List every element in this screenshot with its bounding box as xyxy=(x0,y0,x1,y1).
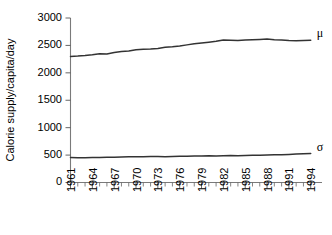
x-tick-label: 1964 xyxy=(87,168,99,192)
x-tick-label: 1985 xyxy=(240,168,252,192)
y-axis-title: Calorie supply/capita/day xyxy=(4,38,16,161)
x-tick-label: 1982 xyxy=(218,168,230,192)
x-tick-label: 1994 xyxy=(305,168,317,192)
y-tick-label: 3000 xyxy=(38,11,62,23)
x-axis-tick-labels: 1961196419671970197319761979198219851988… xyxy=(65,168,317,192)
x-tick-label: 1988 xyxy=(262,168,274,192)
series-label-1: μ xyxy=(317,26,323,40)
y-tick-label: 500 xyxy=(44,148,62,160)
x-tick-label: 1973 xyxy=(152,168,164,192)
x-axis-ticks xyxy=(71,183,311,189)
y-tick-label: 1000 xyxy=(38,121,62,133)
x-tick-label: 1976 xyxy=(174,168,186,192)
series-line-1 xyxy=(71,39,311,56)
y-axis-ticks xyxy=(66,18,71,183)
series-line-2 xyxy=(71,153,311,157)
y-tick-label: 1500 xyxy=(38,93,62,105)
x-tick-label: 1979 xyxy=(196,168,208,192)
x-tick-label: 1961 xyxy=(65,168,77,192)
y-axis-tick-labels: 050010001500200025003000 xyxy=(38,11,62,188)
y-tick-label: 2000 xyxy=(38,66,62,78)
series-label-group: μσ xyxy=(317,26,324,154)
series-label-2: σ xyxy=(317,140,324,154)
y-tick-label: 0 xyxy=(56,175,62,187)
y-tick-label: 2500 xyxy=(38,38,62,50)
data-series-group xyxy=(71,39,311,158)
chart-svg: 050010001500200025003000 Calorie supply/… xyxy=(0,0,332,235)
x-tick-label: 1991 xyxy=(283,168,295,192)
y-axis: 050010001500200025003000 Calorie supply/… xyxy=(4,11,71,188)
x-tick-label: 1967 xyxy=(109,168,121,192)
calorie-supply-line-chart: 050010001500200025003000 Calorie supply/… xyxy=(0,0,332,235)
x-axis: 1961196419671970197319761979198219851988… xyxy=(65,168,322,192)
x-tick-label: 1970 xyxy=(131,168,143,192)
